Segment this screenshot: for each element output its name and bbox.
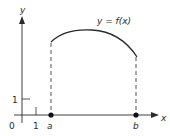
y-axis-label: y — [19, 5, 26, 15]
point-b — [133, 112, 138, 117]
x-tick-label: 1 — [33, 121, 39, 131]
point-a-label: a — [47, 121, 53, 131]
function-graph: y x 0 1 1 y = f(x) a b — [0, 0, 170, 136]
function-curve — [51, 30, 137, 57]
point-b-label: b — [133, 121, 139, 131]
point-a — [48, 112, 53, 117]
curve-label: y = f(x) — [96, 16, 131, 26]
x-axis-arrow-icon — [151, 112, 159, 118]
y-axis-arrow-icon — [19, 16, 25, 24]
x-axis-label: x — [160, 113, 167, 123]
y-tick-label: 1 — [12, 95, 18, 105]
origin-label: 0 — [9, 121, 15, 131]
